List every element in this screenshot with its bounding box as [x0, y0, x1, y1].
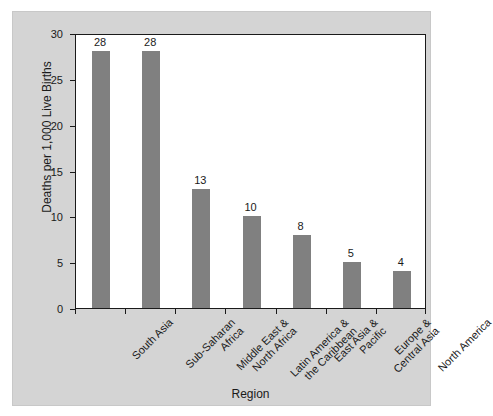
- y-axis-title: Deaths per 1,000 Live Births: [40, 17, 54, 257]
- y-tick-mark: [70, 126, 75, 127]
- y-tick-label: 5: [23, 258, 63, 269]
- bar-value-label: 13: [180, 175, 220, 186]
- y-tick-mark: [70, 172, 75, 173]
- y-tick-mark: [70, 80, 75, 81]
- x-tick-mark: [326, 309, 327, 314]
- figure-panel: 051015202530 Deaths per 1,000 Live Birth…: [13, 12, 430, 405]
- y-tick-label: 0: [23, 304, 63, 315]
- x-tick-mark: [75, 309, 76, 314]
- x-tick-mark: [425, 309, 426, 314]
- bar-value-label: 8: [281, 221, 321, 232]
- bar-value-label: 10: [231, 202, 271, 213]
- x-tick-mark: [276, 309, 277, 314]
- x-axis-title: Region: [75, 387, 426, 401]
- x-tick-mark: [376, 309, 377, 314]
- x-tick-label-line: North America: [435, 316, 493, 374]
- x-tick-label: South Asia: [129, 316, 175, 362]
- bar: [192, 189, 210, 308]
- x-tick-mark: [175, 309, 176, 314]
- bar-value-label: 4: [381, 257, 421, 268]
- bar: [293, 235, 311, 308]
- x-tick-mark: [225, 309, 226, 314]
- bar: [92, 51, 110, 308]
- x-tick-label: North America: [435, 316, 493, 374]
- bar: [393, 271, 411, 308]
- x-tick-label: Europe &Central Asia: [382, 316, 441, 375]
- bar-value-label: 28: [130, 37, 170, 48]
- bar-value-label: 5: [331, 248, 371, 259]
- x-tick-label-line: South Asia: [129, 316, 175, 362]
- bar-value-label: 28: [80, 37, 120, 48]
- bar: [243, 216, 261, 308]
- y-tick-mark: [70, 217, 75, 218]
- bar: [142, 51, 160, 308]
- bars-layer: [76, 35, 425, 308]
- x-tick-mark: [125, 309, 126, 314]
- y-tick-mark: [70, 34, 75, 35]
- y-tick-mark: [70, 263, 75, 264]
- plot-area: [75, 34, 426, 309]
- x-tick-label: Sub-SaharanAfrica: [183, 316, 246, 379]
- bar: [343, 262, 361, 308]
